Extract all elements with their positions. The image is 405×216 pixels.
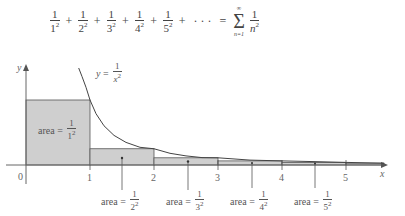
x-tick-4: 4 <box>279 172 284 183</box>
rect-3 <box>154 158 218 165</box>
origin-label: 0 <box>18 171 23 182</box>
area-label-4: area = 142 <box>230 190 270 212</box>
x-tick-3: 3 <box>215 172 220 183</box>
rect-4 <box>218 161 282 165</box>
graph-canvas <box>0 0 405 216</box>
x-axis-label: x <box>380 168 384 179</box>
curve-label: y = 1x2 <box>96 62 124 84</box>
x-tick-2: 2 <box>151 172 156 183</box>
x-tick-5: 5 <box>343 172 348 183</box>
area-label-1: area = 112 <box>38 119 78 141</box>
area-label-5: area = 152 <box>294 190 334 212</box>
y-axis-arrow-icon <box>23 64 29 71</box>
y-axis-label: y <box>17 62 21 73</box>
area-label-3: area = 132 <box>166 190 206 212</box>
x-tick-1: 1 <box>87 172 92 183</box>
area-rectangles <box>26 100 384 165</box>
area-label-2: area = 122 <box>101 190 141 212</box>
